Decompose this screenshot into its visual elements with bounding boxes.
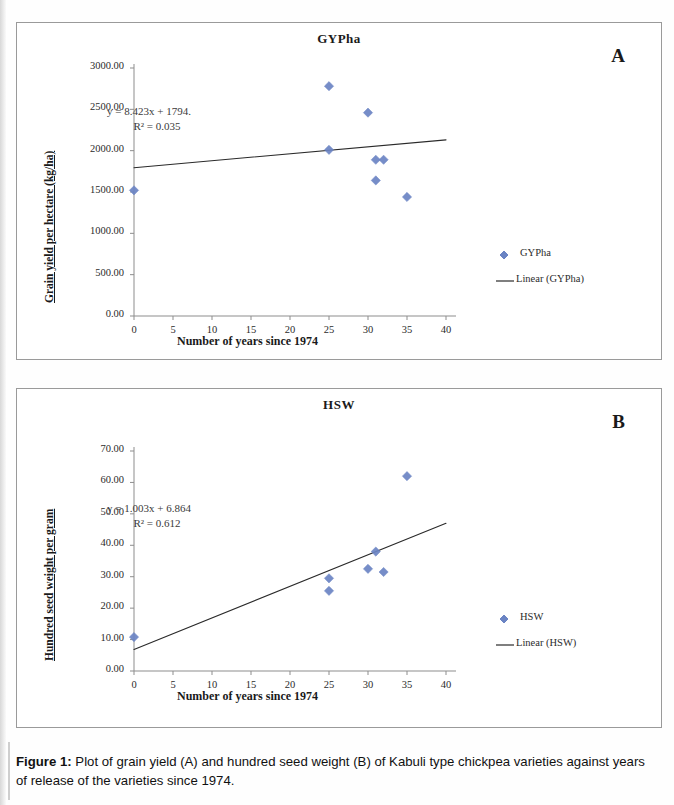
x-tick-label: 0 (114, 679, 154, 690)
data-point-marker (371, 176, 380, 185)
x-tick-label: 35 (387, 324, 427, 335)
legend-series-label: GYPha (520, 247, 551, 258)
y-tick-label: 0.00 (34, 663, 124, 674)
r-squared-value: R² = 0.612 (67, 517, 247, 529)
data-point-marker (379, 155, 388, 164)
chart-panel-b: HSW B 0.0010.0020.0030.0040.0050.0060.00… (16, 388, 662, 728)
x-tick-label: 0 (114, 324, 154, 335)
data-point-marker (379, 567, 388, 576)
x-tick-label: 30 (348, 324, 388, 335)
r-squared-value: R² = 0.035 (67, 120, 247, 132)
figure-page: GYPha A 0.00500.001000.001500.002000.002… (0, 0, 674, 805)
y-axis-label: Grain yield per hectare (kg/ha) (43, 151, 55, 303)
legend-trendline-label: Linear (GYPha) (516, 273, 584, 284)
caption-label: Figure 1: (16, 754, 72, 769)
x-tick-label: 35 (387, 679, 427, 690)
diamond-marker-icon (500, 615, 508, 623)
diamond-marker-icon (500, 251, 508, 259)
data-point-marker (402, 192, 411, 201)
data-point-marker (371, 547, 380, 556)
data-point-marker (324, 574, 333, 583)
data-point-marker (324, 82, 333, 91)
legend-trendline-label: Linear (HSW) (516, 637, 576, 648)
x-tick-label: 40 (426, 324, 466, 335)
plot-area-a: 0.00500.001000.001500.002000.002500.0030… (17, 23, 661, 359)
x-tick-label: 40 (426, 679, 466, 690)
data-point-marker (324, 586, 333, 595)
y-tick-label: 3000.00 (34, 60, 124, 71)
figure-caption: Figure 1: Plot of grain yield (A) and hu… (16, 752, 656, 790)
data-point-marker (324, 145, 333, 154)
legend-series-label: HSW (520, 611, 543, 622)
trendline-equation: y = 8.423x + 1794. (59, 105, 239, 117)
data-point-marker (129, 632, 138, 641)
caption-text: Plot of grain yield (A) and hundred seed… (16, 754, 645, 788)
y-tick-label: 70.00 (34, 443, 124, 454)
y-axis-label: Hundred seed weight per gram (43, 509, 55, 661)
trendline-equation: y = 1.003x + 6.864 (59, 502, 239, 514)
chart-panel-a: GYPha A 0.00500.001000.001500.002000.002… (16, 22, 662, 360)
data-point-marker (129, 186, 138, 195)
scatter-plot-b (17, 389, 663, 729)
x-tick-label: 30 (348, 679, 388, 690)
data-point-marker (363, 108, 372, 117)
y-tick-label: 0.00 (34, 308, 124, 319)
x-axis-label: Number of years since 1974 (177, 334, 318, 349)
data-point-marker (402, 472, 411, 481)
caption-rule (8, 742, 10, 800)
plot-area-b: 0.0010.0020.0030.0040.0050.0060.0070.000… (17, 389, 661, 727)
data-point-marker (363, 564, 372, 573)
y-tick-label: 60.00 (34, 474, 124, 485)
x-axis-label: Number of years since 1974 (177, 689, 318, 704)
scan-edge (0, 0, 6, 805)
